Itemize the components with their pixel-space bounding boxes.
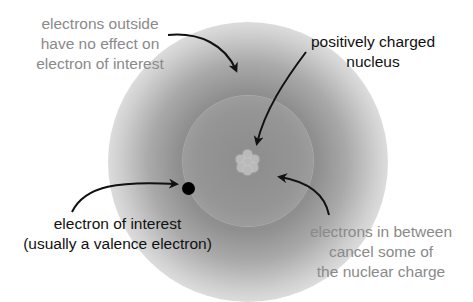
label-line: electrons outside bbox=[25, 14, 175, 34]
arrow-nucleus bbox=[257, 52, 306, 143]
label-line: cancel some of bbox=[306, 242, 456, 262]
label-line: electrons in between bbox=[306, 222, 456, 242]
arrow-between bbox=[280, 177, 329, 215]
label-electrons-in-between: electrons in between cancel some of the … bbox=[306, 222, 456, 282]
label-line: (usually a valence electron) bbox=[20, 234, 215, 254]
label-line: the nuclear charge bbox=[306, 262, 456, 282]
label-line: electron of interest bbox=[25, 54, 175, 74]
arrow-electron bbox=[72, 183, 176, 212]
label-line: nucleus bbox=[308, 52, 438, 72]
label-electrons-outside: electrons outside have no effect on elec… bbox=[25, 14, 175, 74]
label-line: positively charged bbox=[308, 32, 438, 52]
arrow-outside bbox=[168, 35, 236, 70]
label-line: have no effect on bbox=[25, 34, 175, 54]
label-electron-of-interest: electron of interest (usually a valence … bbox=[20, 214, 215, 254]
label-nucleus: positively charged nucleus bbox=[308, 32, 438, 72]
label-line: electron of interest bbox=[20, 214, 215, 234]
